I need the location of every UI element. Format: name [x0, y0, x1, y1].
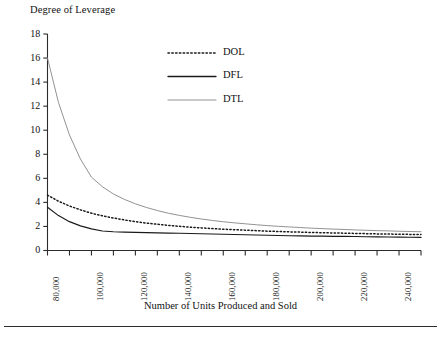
y-axis-tick-label: 0 [14, 245, 40, 255]
legend-sample-lines [168, 53, 216, 100]
series-line-dfl [48, 207, 422, 237]
x-axis-tick-label: 160,000 [227, 271, 237, 300]
y-axis-tick-label: 6 [14, 173, 40, 183]
y-axis-tick-label: 4 [14, 197, 40, 207]
y-axis-tick-label: 14 [14, 77, 40, 87]
legend-label-dol: DOL [223, 46, 245, 57]
bottom-divider [4, 326, 437, 327]
x-axis-title: Number of Units Produced and Sold [0, 300, 441, 311]
chart-figure: Degree of Leverage 024681012141618 80,00… [0, 0, 441, 339]
y-axis-tick-label: 10 [14, 125, 40, 135]
x-axis-tick-label: 220,000 [359, 271, 369, 300]
x-axis-tick-label: 200,000 [315, 271, 325, 300]
x-axis-tick-label: 120,000 [139, 271, 149, 300]
plot-area [0, 0, 441, 339]
series-line-dol [48, 195, 422, 234]
legend-label-dtl: DTL [223, 93, 243, 104]
y-axis-tick-label: 16 [14, 53, 40, 63]
y-axis-tick-label: 12 [14, 101, 40, 111]
series-line-dtl [48, 58, 422, 232]
y-axis-tick-label: 18 [14, 29, 40, 39]
x-axis-tick-label: 100,000 [95, 271, 105, 300]
series-group [48, 58, 422, 237]
y-axis-tick-label: 2 [14, 221, 40, 231]
x-axis-tick-label: 80,000 [51, 276, 61, 301]
x-axis-tick-label: 180,000 [271, 271, 281, 300]
y-axis-tick-label: 8 [14, 149, 40, 159]
plot-svg [0, 0, 441, 339]
x-axis-tick-label: 240,000 [403, 271, 413, 300]
legend-label-dfl: DFL [223, 69, 243, 80]
x-axis-tick-label: 140,000 [183, 271, 193, 300]
